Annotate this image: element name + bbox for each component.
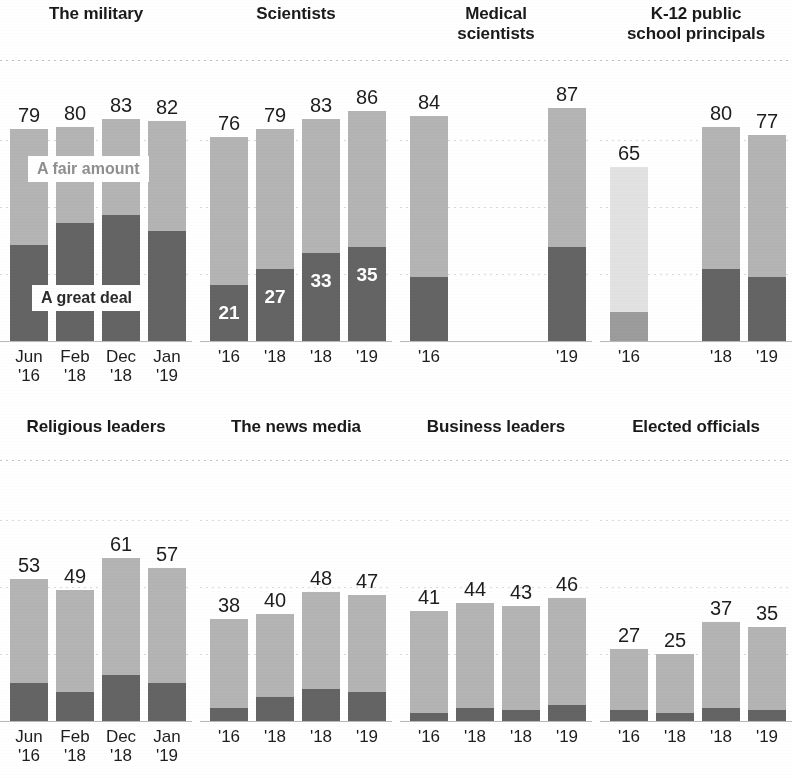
bar-great-deal-label: 35 <box>356 265 377 284</box>
bar <box>548 598 586 721</box>
x-tick-label: '19 <box>344 727 390 746</box>
segment-fair-amount <box>102 558 140 675</box>
segment-great-deal <box>348 692 386 721</box>
bar-total-label: 38 <box>218 595 240 615</box>
bar-total-label: 41 <box>418 587 440 607</box>
panel-3: K-12 public school principals658077'16'1… <box>600 0 792 400</box>
axis-baseline <box>200 341 392 342</box>
chart-band-1: Religious leaders53496157Jun '16Feb '18D… <box>0 400 792 778</box>
bar <box>348 595 386 721</box>
segment-great-deal <box>148 231 186 341</box>
segment-fair-amount <box>702 127 740 269</box>
x-tick-label: '19 <box>344 347 390 366</box>
bar-total-label: 77 <box>756 111 778 131</box>
segment-great-deal <box>56 692 94 721</box>
bar-total-label: 61 <box>110 534 132 554</box>
bar-total-label: 80 <box>710 103 732 123</box>
bar-total-label: 53 <box>18 555 40 575</box>
bar <box>610 167 648 341</box>
panel-title: Medical scientists <box>400 4 592 44</box>
panel-2: Medical scientists8487'16'19 <box>400 0 592 400</box>
x-tick-label: '18 <box>252 347 298 366</box>
segment-fair-amount <box>148 568 186 683</box>
segment-fair-amount <box>748 135 786 277</box>
x-tick-label: '18 <box>298 347 344 366</box>
panel-title: The military <box>0 4 192 24</box>
panel-0: The military79808382Jun '16Feb '18Dec '1… <box>0 0 192 400</box>
bar <box>148 568 186 721</box>
plot-area: 8487 <box>400 100 592 342</box>
x-tick-label: '16 <box>606 347 652 366</box>
segment-great-deal <box>210 708 248 721</box>
bar-total-label: 25 <box>664 630 686 650</box>
segment-great-deal <box>148 683 186 721</box>
panel-4: Religious leaders53496157Jun '16Feb '18D… <box>0 400 192 778</box>
gridline-50 <box>600 587 792 588</box>
x-tick-label: '18 <box>698 347 744 366</box>
segment-fair-amount <box>256 129 294 269</box>
bar <box>748 627 786 721</box>
bar-total-label: 82 <box>156 97 178 117</box>
bar-total-label: 80 <box>64 103 86 123</box>
gridline-75 <box>400 520 592 521</box>
plot-area: 658077 <box>600 100 792 342</box>
segment-fair-amount <box>302 592 340 689</box>
segment-fair-amount <box>148 121 186 231</box>
axis-baseline <box>400 721 592 722</box>
segment-fair-amount <box>410 116 448 277</box>
bar <box>656 654 694 721</box>
legend-a-great-deal: A great deal <box>32 285 141 311</box>
segment-fair-amount <box>348 111 386 247</box>
segment-great-deal <box>502 710 540 721</box>
segment-great-deal <box>302 689 340 721</box>
panel-5: The news media38404847'16'18'18'19 <box>200 400 392 778</box>
x-tick-label: '16 <box>406 347 452 366</box>
panel-title: K-12 public school principals <box>600 4 792 44</box>
bar-great-deal-label: 33 <box>310 271 331 290</box>
segment-great-deal <box>410 277 448 341</box>
bar-total-label: 83 <box>110 95 132 115</box>
segment-fair-amount <box>302 119 340 253</box>
axis-baseline <box>600 341 792 342</box>
bar-total-label: 65 <box>618 143 640 163</box>
x-tick-label: '18 <box>298 727 344 746</box>
segment-great-deal <box>10 683 48 721</box>
bar <box>302 119 340 341</box>
segment-fair-amount <box>502 606 540 710</box>
segment-fair-amount <box>610 649 648 710</box>
bar-total-label: 86 <box>356 87 378 107</box>
panel-title: Elected officials <box>600 417 792 437</box>
x-tick-label: '18 <box>652 727 698 746</box>
bar-total-label: 79 <box>264 105 286 125</box>
plot-area: 38404847 <box>200 528 392 722</box>
x-tick-label: Jan '19 <box>144 727 190 765</box>
bar <box>302 592 340 721</box>
axis-baseline <box>400 341 592 342</box>
bar-total-label: 43 <box>510 582 532 602</box>
segment-great-deal <box>702 269 740 341</box>
bar-total-label: 40 <box>264 590 286 610</box>
segment-great-deal <box>748 710 786 721</box>
bar-total-label: 76 <box>218 113 240 133</box>
panel-6: Business leaders41444346'16'18'18'19 <box>400 400 592 778</box>
segment-fair-amount <box>410 611 448 713</box>
bar-total-label: 57 <box>156 544 178 564</box>
x-tick-label: '19 <box>544 347 590 366</box>
x-tick-label: Dec '18 <box>98 347 144 385</box>
stacked-bar-panel-chart: The military79808382Jun '16Feb '18Dec '1… <box>0 0 792 778</box>
segment-great-deal <box>610 312 648 341</box>
axis-baseline <box>0 721 192 722</box>
bar-total-label: 83 <box>310 95 332 115</box>
x-tick-label: '16 <box>606 727 652 746</box>
segment-great-deal <box>456 708 494 721</box>
bar <box>702 127 740 341</box>
plot-area: 27253735 <box>600 528 792 722</box>
plot-area: 53496157 <box>0 528 192 722</box>
segment-fair-amount <box>548 598 586 705</box>
segment-great-deal <box>256 697 294 721</box>
segment-great-deal <box>302 253 340 341</box>
bar-total-label: 35 <box>756 603 778 623</box>
segment-great-deal <box>610 710 648 721</box>
segment-great-deal <box>348 247 386 341</box>
segment-great-deal <box>548 705 586 721</box>
